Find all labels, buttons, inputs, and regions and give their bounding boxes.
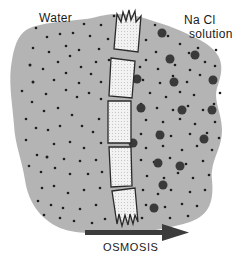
solution-label: solution [189,27,233,41]
membrane-segment-3 [108,101,131,143]
osmosis-label: OSMOSIS [103,241,159,253]
water-label: Water [39,11,72,25]
membrane-segment-2 [109,58,135,98]
nacl-label: Na Cl [184,13,216,27]
membrane-segment-4 [109,147,132,187]
